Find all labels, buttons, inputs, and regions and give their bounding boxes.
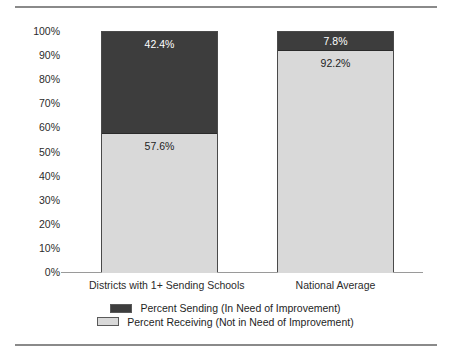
bottom-divider-rule bbox=[15, 344, 437, 346]
bar-label-sending: 7.8% bbox=[324, 32, 348, 47]
chart-legend: Percent Sending (In Need of Improvement)… bbox=[0, 303, 451, 327]
category-label-national-average: National Average bbox=[277, 279, 394, 292]
bar-label-sending: 42.4% bbox=[145, 32, 175, 50]
y-tick-90: 90% bbox=[18, 50, 60, 61]
bar-segment-sending: 7.8% bbox=[278, 32, 393, 51]
y-tick-10: 10% bbox=[18, 243, 60, 254]
y-tick-0: 0% bbox=[18, 267, 60, 278]
y-tick-70: 70% bbox=[18, 98, 60, 109]
y-tick-60: 60% bbox=[18, 122, 60, 133]
legend-item-sending[interactable]: Percent Sending (In Need of Improvement) bbox=[110, 303, 340, 314]
bar-districts-with-sending-schools[interactable]: 42.4% 57.6% bbox=[101, 31, 218, 272]
bar-segment-sending: 42.4% bbox=[102, 32, 217, 134]
y-tick-50: 50% bbox=[18, 146, 60, 157]
legend-swatch-icon-sending bbox=[110, 304, 132, 313]
y-tick-40: 40% bbox=[18, 170, 60, 181]
y-tick-100: 100% bbox=[18, 26, 60, 37]
chart-figure: 100% 90% 80% 70% 60% 50% 40% 30% 20% 10%… bbox=[0, 0, 451, 357]
category-label-districts: Districts with 1+ Sending Schools bbox=[89, 279, 230, 292]
legend-swatch-icon-receiving bbox=[97, 317, 119, 326]
y-tick-80: 80% bbox=[18, 74, 60, 85]
y-tick-20: 20% bbox=[18, 219, 60, 230]
bar-national-average[interactable]: 7.8% 92.2% bbox=[277, 31, 394, 272]
bar-segment-receiving: 57.6% bbox=[102, 134, 217, 273]
legend-item-receiving[interactable]: Percent Receiving (Not in Need of Improv… bbox=[97, 317, 353, 328]
top-divider-rule bbox=[15, 6, 437, 8]
bar-label-receiving: 92.2% bbox=[321, 51, 351, 69]
bar-segment-receiving: 92.2% bbox=[278, 51, 393, 273]
legend-label-receiving: Percent Receiving (Not in Need of Improv… bbox=[127, 317, 353, 328]
legend-label-sending: Percent Sending (In Need of Improvement) bbox=[140, 303, 340, 314]
bar-label-receiving: 57.6% bbox=[145, 134, 175, 152]
x-axis-origin-tick bbox=[61, 272, 66, 273]
y-tick-30: 30% bbox=[18, 194, 60, 205]
